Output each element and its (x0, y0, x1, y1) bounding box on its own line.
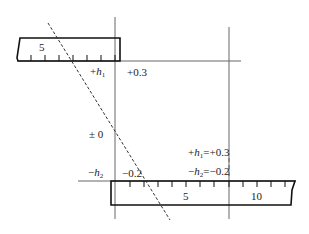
plus-0-3-label: +0.3 (127, 67, 147, 78)
subscript-2: 2 (100, 172, 104, 180)
leveling-diagram: 5 +h1 +0.3 ± 0 −h2 −0.2 +h1=+0.3 −h2=−0.… (0, 0, 309, 234)
h2-value: =−0.2 (203, 165, 229, 177)
h1-equation-label: +h1=+0.3 (188, 147, 229, 160)
diagram-canvas (0, 0, 309, 234)
bottom-ruler (111, 181, 295, 205)
dashed-sight-line (48, 23, 170, 220)
h1-value: =+0.3 (203, 146, 229, 158)
minus-0-2-label: −0.2 (122, 168, 142, 179)
top-ruler (17, 38, 120, 61)
top-ruler-tick-label: 5 (39, 42, 45, 53)
bottom-ruler-label-5: 5 (183, 191, 189, 202)
subscript-1: 1 (102, 71, 106, 79)
bottom-ruler-label-10: 10 (251, 191, 262, 202)
plus-h1-label: +h1 (90, 66, 105, 79)
h2-equation-label: −h2=−0.2 (188, 166, 229, 179)
plus-minus-zero-label: ± 0 (89, 129, 103, 140)
minus-h2-label: −h2 (88, 167, 103, 180)
